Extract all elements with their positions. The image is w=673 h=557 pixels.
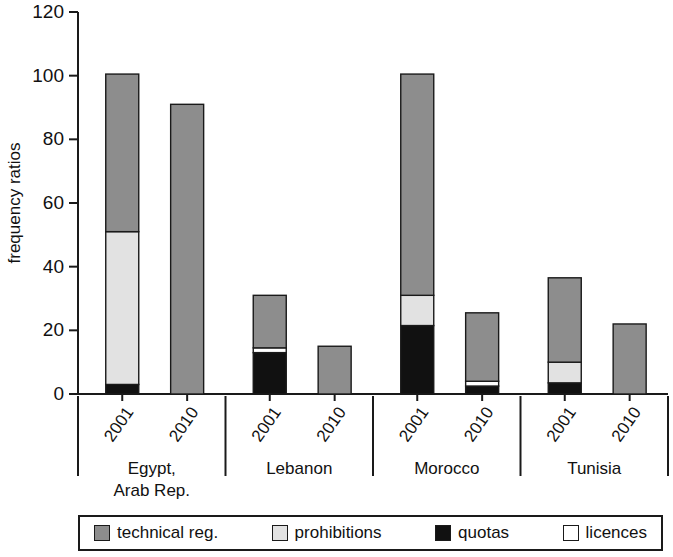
x-axis-year-label: 2010 bbox=[608, 403, 645, 445]
x-axis-year-label: 2010 bbox=[165, 403, 202, 445]
legend-swatch-icon bbox=[94, 525, 110, 541]
bar-segment bbox=[466, 381, 499, 386]
bar-segment bbox=[253, 295, 286, 348]
bar-segment bbox=[106, 384, 139, 394]
bar-segment bbox=[318, 346, 351, 394]
legend-label: quotas bbox=[458, 523, 509, 543]
y-axis-tick-label: 0 bbox=[53, 383, 64, 404]
bar-segment bbox=[106, 74, 139, 232]
bar-segment bbox=[548, 383, 581, 394]
group-label: Tunisia bbox=[567, 459, 622, 478]
x-axis-year-label: 2001 bbox=[248, 403, 285, 445]
bar-segment bbox=[466, 386, 499, 394]
chart-container: 020406080100120frequency ratios200120102… bbox=[0, 0, 673, 557]
legend-label: licences bbox=[586, 523, 647, 543]
y-axis-tick-label: 60 bbox=[43, 192, 64, 213]
x-axis-year-label: 2010 bbox=[313, 403, 350, 445]
bar-segment bbox=[253, 348, 286, 353]
legend-item[interactable]: quotas bbox=[435, 523, 509, 543]
bar-segment bbox=[548, 278, 581, 362]
y-axis-tick-label: 40 bbox=[43, 256, 64, 277]
y-axis-tick-label: 100 bbox=[32, 65, 64, 86]
legend-item-list: technical reg.prohibitionsquotaslicences bbox=[80, 523, 661, 543]
bar-segment bbox=[401, 74, 434, 295]
bar-segment bbox=[401, 295, 434, 325]
bar-segment bbox=[466, 313, 499, 381]
legend-item[interactable]: prohibitions bbox=[272, 523, 382, 543]
bar-segment bbox=[253, 353, 286, 394]
legend-swatch-icon bbox=[435, 525, 451, 541]
x-axis-year-label: 2010 bbox=[460, 403, 497, 445]
y-axis-tick-label: 80 bbox=[43, 128, 64, 149]
group-label: Arab Rep. bbox=[113, 481, 190, 500]
x-axis-year-label: 2001 bbox=[100, 403, 137, 445]
stacked-bar-chart: 020406080100120frequency ratios200120102… bbox=[0, 0, 673, 515]
x-axis-year-label: 2001 bbox=[543, 403, 580, 445]
y-axis-tick-label: 120 bbox=[32, 1, 64, 22]
group-label: Morocco bbox=[414, 459, 479, 478]
legend-item[interactable]: licences bbox=[563, 523, 647, 543]
legend-swatch-icon bbox=[563, 525, 579, 541]
legend-label: prohibitions bbox=[295, 523, 382, 543]
group-label: Egypt, bbox=[128, 459, 176, 478]
bar-segment bbox=[613, 324, 646, 394]
y-axis-title: frequency ratios bbox=[5, 143, 24, 264]
group-label: Lebanon bbox=[266, 459, 332, 478]
legend-item[interactable]: technical reg. bbox=[94, 523, 218, 543]
chart-legend: technical reg.prohibitionsquotaslicences bbox=[78, 515, 663, 551]
legend-swatch-icon bbox=[272, 525, 288, 541]
bar-segment bbox=[401, 326, 434, 394]
legend-label: technical reg. bbox=[117, 523, 218, 543]
x-axis-year-label: 2001 bbox=[395, 403, 432, 445]
bar-segment bbox=[548, 362, 581, 383]
y-axis-tick-label: 20 bbox=[43, 319, 64, 340]
bar-segment bbox=[106, 232, 139, 385]
bar-segment bbox=[171, 104, 204, 394]
